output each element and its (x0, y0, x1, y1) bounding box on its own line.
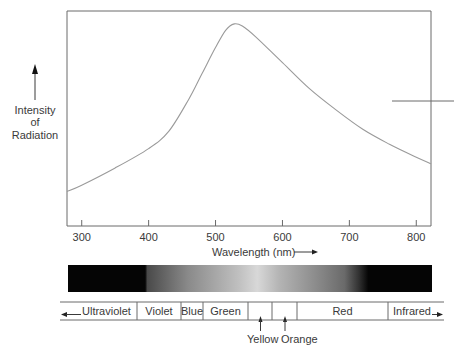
plot-area (67, 11, 431, 226)
intensity-curve (67, 24, 431, 192)
x-axis-label: Wavelength (nm) (212, 246, 318, 258)
spectrum-chart: 300400500600700800 Wavelength (nm) Inten… (0, 0, 454, 357)
label-orange: Orange (281, 333, 318, 345)
band-red: Red (332, 305, 352, 317)
band-green: Green (210, 305, 241, 317)
y-label-line-1: Intensity (15, 104, 56, 116)
x-tick-label: 700 (340, 231, 358, 243)
visible-spectrum-bar (68, 265, 432, 292)
y-axis-label: Intensity of Radiation (12, 64, 58, 141)
band-ultraviolet: Ultraviolet (82, 305, 131, 317)
band-violet: Violet (145, 305, 172, 317)
x-tick-label: 600 (273, 231, 291, 243)
label-yellow: Yellow (247, 333, 278, 345)
x-tick-label: 500 (206, 231, 224, 243)
x-axis-title: Wavelength (nm) (212, 246, 295, 258)
y-axis-arrow-icon (32, 64, 38, 74)
right-arrow-icon (437, 312, 443, 317)
x-axis-arrow-icon (312, 250, 318, 255)
band-blue: Blue (181, 305, 203, 317)
x-tick-label: 800 (407, 231, 425, 243)
x-tick-label: 300 (73, 231, 91, 243)
x-ticks: 300400500600700800 (73, 220, 426, 243)
y-label-line-2: of (30, 116, 40, 128)
band-table: Ultraviolet Violet Blue Green Red Infrar… (60, 302, 444, 320)
x-tick-label: 400 (139, 231, 157, 243)
y-label-line-3: Radiation (12, 129, 58, 141)
band-infrared: Infrared (393, 305, 431, 317)
